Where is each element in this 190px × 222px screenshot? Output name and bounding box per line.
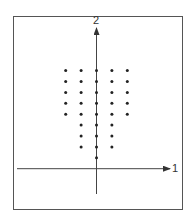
- lattice-point: [80, 135, 83, 138]
- lattice-point: [126, 113, 129, 116]
- lattice-point: [95, 113, 98, 116]
- lattice-point: [110, 135, 113, 138]
- lattice-point: [126, 80, 129, 83]
- lattice-point: [95, 80, 98, 83]
- horizontal-axis-label: 1: [172, 163, 178, 174]
- lattice-point: [110, 145, 113, 148]
- lattice-point: [95, 124, 98, 127]
- lattice-point: [64, 102, 67, 105]
- lattice-point: [126, 69, 129, 72]
- lattice-point: [126, 102, 129, 105]
- lattice-point: [95, 102, 98, 105]
- lattice-point: [80, 91, 83, 94]
- lattice-point: [110, 124, 113, 127]
- lattice-point: [110, 91, 113, 94]
- lattice-plot: [0, 0, 190, 222]
- lattice-point: [80, 69, 83, 72]
- vertical-axis-label: 2: [93, 15, 99, 26]
- lattice-point: [110, 113, 113, 116]
- lattice-point: [110, 102, 113, 105]
- lattice-point: [64, 80, 67, 83]
- lattice-point: [126, 91, 129, 94]
- lattice-point: [64, 69, 67, 72]
- lattice-points: [64, 69, 129, 159]
- lattice-point: [80, 145, 83, 148]
- lattice-point: [110, 69, 113, 72]
- lattice-point: [95, 69, 98, 72]
- lattice-point: [110, 80, 113, 83]
- lattice-point: [95, 156, 98, 159]
- lattice-point: [80, 80, 83, 83]
- lattice-point: [80, 124, 83, 127]
- lattice-point: [80, 102, 83, 105]
- lattice-point: [95, 145, 98, 148]
- lattice-point: [80, 113, 83, 116]
- lattice-point: [95, 91, 98, 94]
- lattice-point: [64, 91, 67, 94]
- lattice-point: [95, 135, 98, 138]
- lattice-point: [64, 113, 67, 116]
